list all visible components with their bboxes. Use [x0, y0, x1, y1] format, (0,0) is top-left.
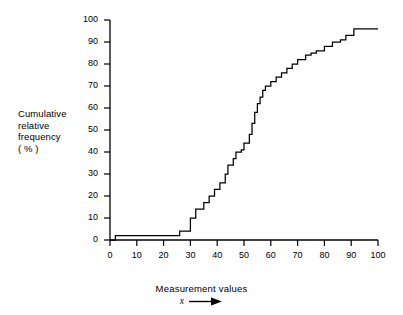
y-tick-label-10: 10	[72, 213, 98, 222]
x-tick-label-60: 60	[258, 251, 284, 260]
x-tick-label-50: 50	[231, 251, 257, 260]
y-tick-label-40: 40	[72, 147, 98, 156]
y-axis-ticks	[104, 20, 110, 240]
arrow-right-icon	[189, 297, 223, 306]
x-tick-label-40: 40	[204, 251, 230, 260]
y-tick-label-80: 80	[72, 59, 98, 68]
x-tick-label-0: 0	[97, 251, 123, 260]
x-axis-variable: x	[0, 296, 403, 306]
x-axis-title: Measurement values	[0, 283, 403, 294]
x-tick-label-100: 100	[365, 251, 391, 260]
x-tick-label-90: 90	[338, 251, 364, 260]
axes	[110, 20, 378, 240]
x-tick-label-20: 20	[151, 251, 177, 260]
x-axis-ticks	[110, 240, 378, 246]
y-tick-label-60: 60	[72, 103, 98, 112]
x-tick-label-10: 10	[124, 251, 150, 260]
plot-area	[0, 0, 403, 315]
y-tick-label-0: 0	[72, 235, 98, 244]
x-tick-label-80: 80	[311, 251, 337, 260]
y-tick-label-50: 50	[72, 125, 98, 134]
x-tick-label-30: 30	[177, 251, 203, 260]
y-tick-label-70: 70	[72, 81, 98, 90]
x-axis-variable-symbol: x	[180, 296, 184, 306]
y-tick-label-20: 20	[72, 191, 98, 200]
cumulative-frequency-step-curve	[110, 29, 378, 240]
chart-figure: Cumulative relative frequency ( % ) 0102…	[0, 0, 403, 315]
y-tick-label-30: 30	[72, 169, 98, 178]
y-tick-label-100: 100	[72, 15, 98, 24]
y-tick-label-90: 90	[72, 37, 98, 46]
x-tick-label-70: 70	[285, 251, 311, 260]
